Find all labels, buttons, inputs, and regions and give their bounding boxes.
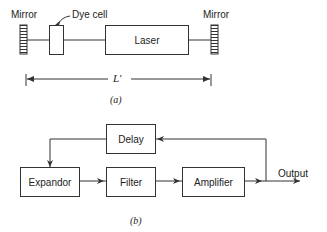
filter-label: Filter <box>120 177 142 188</box>
laser-box: Laser <box>105 25 189 55</box>
caption-a: (a) <box>110 94 122 105</box>
filter-box: Filter <box>106 167 156 197</box>
delay-label: Delay <box>118 134 144 145</box>
dye-cell-box <box>49 25 64 55</box>
expandor-box: Expandor <box>20 167 80 197</box>
mirror-left-label: Mirror <box>11 9 37 21</box>
mirror-right-label: Mirror <box>203 9 229 21</box>
laser-label: Laser <box>134 35 159 46</box>
dye-cell-label: Dye cell <box>72 9 108 21</box>
amplifier-box: Amplifier <box>182 167 245 197</box>
length-label: L′ <box>113 72 122 84</box>
output-label: Output <box>278 168 308 180</box>
amplifier-label: Amplifier <box>194 177 233 188</box>
mirror-right-icon <box>211 25 218 54</box>
mirror-left-icon <box>20 25 27 54</box>
caption-b: (b) <box>130 215 142 226</box>
delay-box: Delay <box>106 124 156 154</box>
expandor-label: Expandor <box>29 177 72 188</box>
